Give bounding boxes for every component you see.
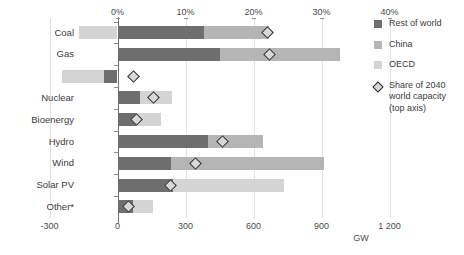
bottom-axis-tick: 600 [232,221,276,231]
bar-segment [118,91,141,104]
bottom-axis-unit-label: GW [341,233,381,243]
category-axis-tick-mark [114,196,118,197]
legend: Rest of worldChinaOECDShare of 2040 worl… [374,18,464,123]
category-label: Hydro [4,136,74,148]
top-axis-tick: 30% [302,7,342,17]
category-axis-tick-mark [114,152,118,153]
category-axis-tick-mark [114,131,118,132]
bar-segment [118,26,204,39]
legend-item: OECD [374,59,464,71]
category-axis-tick-mark [114,109,118,110]
legend-label: China [389,39,413,51]
top-axis-tick-mark [320,18,324,19]
category-label: Nuclear [4,92,74,104]
bar-segment [118,48,220,61]
bottom-axis-tick: 1 200 [368,221,412,231]
bar-segment [118,157,171,170]
top-axis-tick-mark [184,18,188,19]
category-axis-labels: CoalGasOilNuclearBioenergyHydroWindSolar… [0,0,74,255]
category-axis-tick-mark [114,22,118,23]
top-axis-tick: 0% [98,7,138,17]
share-marker-diamond [127,70,140,83]
bar-segment [104,70,118,83]
category-axis-tick-mark [114,87,118,88]
legend-label: Rest of world [389,18,442,30]
bar-segment [62,70,104,83]
legend-swatch-icon [374,61,382,69]
bar-segment [133,200,152,213]
top-axis-tick: 10% [166,7,206,17]
category-axis-tick-mark [114,174,118,175]
bottom-axis-tick: 0 [96,221,140,231]
category-label: Other* [4,201,74,213]
top-axis-tick-mark [116,18,120,19]
bar-segment [173,179,284,192]
legend-label: OECD [389,59,415,71]
legend-item: China [374,39,464,51]
chart-root: 0%10%20%30%40% -30003006009001 200 GW Co… [0,0,464,255]
category-axis-tick-mark [114,65,118,66]
top-axis-tick: 20% [234,7,274,17]
category-label: Gas [4,48,74,60]
legend-item: Share of 2040 world capacity (top axis) [374,80,464,115]
category-label: Coal [4,27,74,39]
bar-segment [118,135,209,148]
legend-item: Rest of world [374,18,464,30]
bar-segment [79,26,118,39]
top-axis-tick: 40% [370,7,410,17]
legend-diamond-icon [372,81,383,92]
bottom-axis-tick: 300 [164,221,208,231]
bar-segment [204,26,270,39]
top-axis-tick-mark [252,18,256,19]
category-label: Wind [4,157,74,169]
category-axis-tick-mark [114,43,118,44]
category-label: Bioenergy [4,114,74,126]
bar-segment [220,48,340,61]
legend-label: Share of 2040 world capacity (top axis) [389,80,446,115]
category-label: Solar PV [4,179,74,191]
legend-swatch-icon [374,41,382,49]
bottom-axis-tick: 900 [300,221,344,231]
legend-swatch-icon [374,20,382,28]
